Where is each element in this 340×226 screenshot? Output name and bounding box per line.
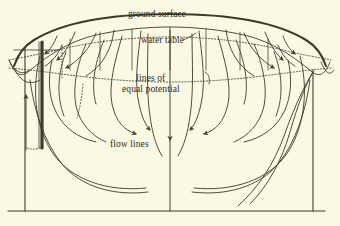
flow-line-r15 (250, 72, 313, 204)
flow-line-l14 (148, 34, 163, 156)
flow-line-r7 (274, 52, 281, 116)
flow-line-r13 (194, 56, 304, 189)
flow-line-r12 (192, 80, 310, 193)
flow-line-l1 (45, 36, 57, 54)
flow-line-r14 (178, 34, 193, 156)
edge-curl-left-1 (9, 60, 30, 73)
flow-line-l8 (75, 44, 106, 142)
flow-line-l9 (94, 40, 104, 104)
equipotential-label-line-2: equal potential (122, 84, 180, 94)
flow-line-l6 (49, 60, 96, 142)
equipotential-label-line-1: lines of (136, 73, 165, 83)
flow-line-r16 (238, 72, 313, 206)
flow-line-l7 (59, 52, 66, 116)
flow-line-l3 (45, 45, 62, 66)
flow-lines-label: flow lines (110, 139, 149, 150)
flow-line-r6 (244, 60, 291, 142)
water-table-label: water table (141, 35, 184, 46)
flow-line-r4 (244, 33, 274, 68)
flow-line-r8 (234, 44, 265, 142)
flow-net-drawing (0, 0, 340, 226)
equipotential-label: lines of equal potential (122, 73, 180, 95)
flow-line-r10 (204, 36, 229, 134)
flow-line-r3 (278, 45, 295, 66)
groundwater-flow-net-figure: ground surface water table lines of equa… (0, 0, 340, 226)
flow-line-r9 (236, 40, 246, 104)
well-bottom-connector (27, 147, 42, 149)
flow-line-l4 (66, 33, 96, 68)
ground-surface-label: ground surface (128, 9, 186, 20)
water-table-leader (183, 33, 196, 40)
flow-line-l12 (30, 80, 148, 193)
equipotential-leader (205, 72, 209, 84)
